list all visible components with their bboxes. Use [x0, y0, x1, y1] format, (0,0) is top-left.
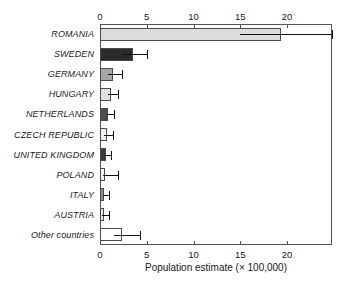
error-bar-other-countries	[114, 235, 140, 236]
error-bar-sweden	[122, 54, 147, 55]
x-tick-bottom-15	[240, 241, 241, 245]
category-label-czech-republic: CZECH REPUBLIC	[14, 130, 94, 140]
category-label-united-kingdom: UNITED KINGDOM	[14, 150, 94, 160]
error-bar-cap-czech-republic	[113, 131, 114, 140]
error-bar-cap-germany	[122, 70, 123, 79]
error-bar-austria	[102, 215, 109, 216]
x-tick-label-top-15: 15	[235, 11, 246, 22]
error-bar-cap-italy	[109, 191, 110, 200]
category-label-poland: POLAND	[56, 170, 94, 180]
category-label-romania: ROMANIA	[51, 29, 94, 39]
error-bar-cap-netherlands	[114, 110, 115, 119]
x-tick-label-bottom-0: 0	[97, 249, 102, 260]
category-label-netherlands: NETHERLANDS	[26, 109, 94, 119]
x-tick-label-bottom-5: 5	[144, 249, 149, 260]
x-tick-top-20	[287, 24, 288, 28]
x-tick-bottom-20	[287, 241, 288, 245]
x-tick-label-top-10: 10	[188, 11, 199, 22]
x-tick-label-bottom-10: 10	[188, 249, 199, 260]
x-tick-label-top-20: 20	[282, 11, 293, 22]
error-bar-cap-austria	[109, 211, 110, 220]
error-bar-cap-romania	[332, 30, 333, 39]
error-bar-cap-united-kingdom	[111, 151, 112, 160]
category-label-sweden: SWEDEN	[54, 49, 94, 59]
error-bar-cap-hungary	[118, 90, 119, 99]
error-bar-cap-sweden	[147, 50, 148, 59]
category-axis-labels: ROMANIASWEDENGERMANYHUNGARYNETHERLANDSCZ…	[0, 24, 97, 245]
category-label-austria: AUSTRIA	[54, 210, 94, 220]
error-bar-netherlands	[106, 114, 114, 115]
error-bar-united-kingdom	[104, 155, 111, 156]
error-bar-hungary	[108, 94, 118, 95]
category-label-germany: GERMANY	[48, 69, 94, 79]
category-label-italy: ITALY	[70, 190, 94, 200]
error-bar-germany	[108, 74, 122, 75]
x-tick-bottom-0	[100, 241, 101, 245]
bar-chart-figure: 05101520 05101520 ROMANIASWEDENGERMANYHU…	[0, 0, 345, 286]
category-label-other-countries: Other countries	[31, 230, 94, 240]
x-tick-label-top-0: 0	[97, 11, 102, 22]
category-label-hungary: HUNGARY	[49, 89, 94, 99]
error-bar-romania	[240, 34, 332, 35]
x-tick-bottom-5	[147, 241, 148, 245]
error-bar-poland	[103, 175, 118, 176]
error-bar-czech-republic	[104, 135, 113, 136]
x-tick-label-bottom-15: 15	[235, 249, 246, 260]
x-tick-label-bottom-20: 20	[282, 249, 293, 260]
x-tick-label-top-5: 5	[144, 11, 149, 22]
error-bar-cap-other-countries	[140, 231, 141, 240]
error-bar-cap-poland	[118, 171, 119, 180]
x-axis-title: Population estimate (× 100,000)	[100, 262, 332, 273]
plot-area	[100, 24, 332, 245]
x-tick-bottom-10	[194, 241, 195, 245]
